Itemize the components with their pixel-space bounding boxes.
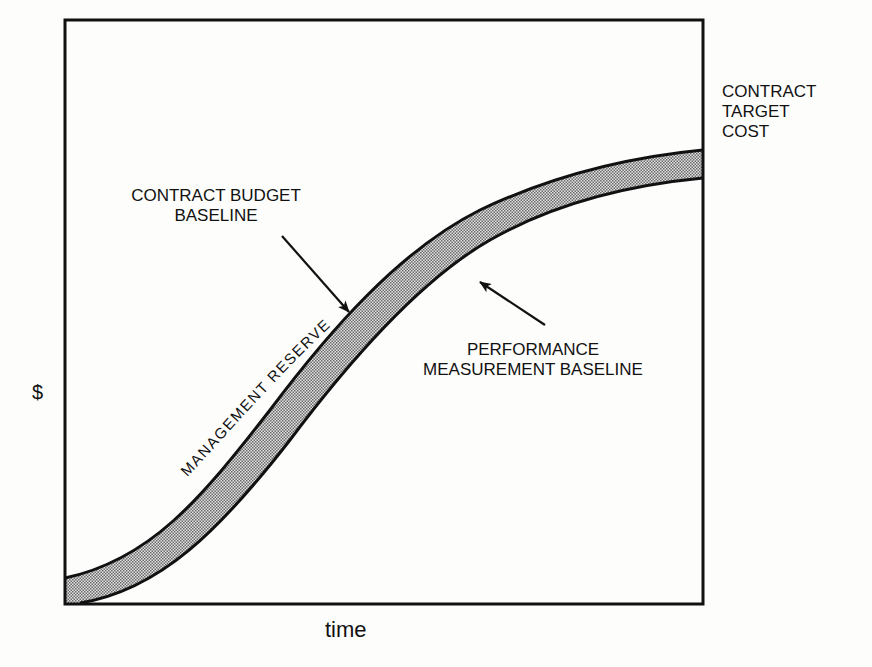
contract-target-cost-line-3: COST: [722, 122, 816, 142]
performance-measurement-baseline-label: PERFORMANCE MEASUREMENT BASELINE: [408, 340, 658, 380]
contract-budget-baseline-label: CONTRACT BUDGET BASELINE: [116, 186, 316, 226]
contract-target-cost-label: CONTRACT TARGET COST: [722, 82, 816, 142]
y-axis-label: $: [32, 382, 43, 402]
contract-target-cost-line-2: TARGET: [722, 102, 816, 122]
performance-measurement-baseline-line-2: MEASUREMENT BASELINE: [408, 360, 658, 380]
performance-measurement-baseline-line-1: PERFORMANCE: [408, 340, 658, 360]
contract-target-cost-line-1: CONTRACT: [722, 82, 816, 102]
contract-budget-baseline-line-1: CONTRACT BUDGET: [116, 186, 316, 206]
contract-budget-baseline-line-2: BASELINE: [116, 206, 316, 226]
performance-measurement-baseline-arrow: [480, 282, 545, 325]
contract-budget-baseline-arrow: [282, 236, 349, 312]
x-axis-label: time: [325, 620, 367, 640]
